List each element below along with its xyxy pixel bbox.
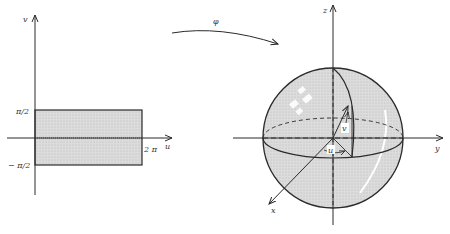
tick-pi-half: π/2 [15, 107, 29, 116]
phi-label: φ [213, 17, 219, 26]
tick-neg-pi-half: − π/2 [8, 161, 30, 170]
parametrization-diagram: v u π/2 − π/2 2 π φ [0, 0, 450, 234]
sphere-figure: z y x v u [233, 5, 443, 225]
v-axis-label: v [23, 15, 28, 24]
y-axis-label: y [434, 144, 440, 153]
z-axis-label: z [322, 6, 328, 15]
u-axis-label: u [165, 142, 170, 151]
u-angle-label: u [328, 146, 333, 155]
x-axis-label: x [271, 206, 276, 215]
tick-two-pi: 2 π [143, 145, 158, 154]
v-angle-label: v [342, 124, 347, 133]
mapping-arrow: φ [172, 17, 278, 44]
parameter-domain: v u π/2 − π/2 2 π [7, 15, 172, 195]
